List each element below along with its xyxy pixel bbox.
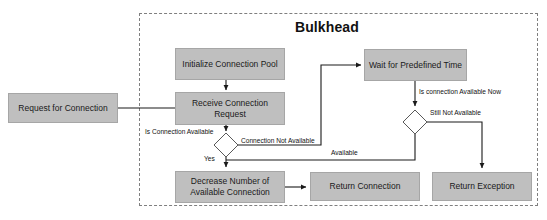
- decision-connection-available-diamond: [214, 133, 238, 157]
- edge-label-available: Available: [331, 149, 358, 157]
- node-decrease-number-of-available-connection[interactable]: Decrease Number of Available Connection: [175, 171, 285, 203]
- edge-label-is-connection-available: Is Connection Available: [145, 128, 213, 136]
- edge-decisionnow-to-returnexception: [427, 122, 482, 168]
- node-initialize-connection-pool[interactable]: Initialize Connection Pool: [175, 48, 285, 80]
- node-receive-connection-request[interactable]: Receive Connection Request: [175, 92, 285, 125]
- node-wait-for-predefined-time[interactable]: Wait for Predefined Time: [364, 49, 467, 81]
- decision-connection-available-now-diamond: [403, 110, 427, 134]
- edge-label-still-not-available: Still Not Available: [430, 109, 481, 117]
- node-return-exception[interactable]: Return Exception: [432, 172, 532, 201]
- edge-label-connection-not-available: Connection Not Available: [241, 137, 315, 145]
- node-return-connection[interactable]: Return Connection: [310, 172, 420, 201]
- edge-label-yes: Yes: [204, 155, 215, 163]
- edge-label-is-connection-available-now: Is connection Available Now: [419, 88, 501, 96]
- diagram-canvas: Bulkhead Request for Connectio: [0, 0, 547, 220]
- node-request-for-connection[interactable]: Request for Connection: [8, 93, 118, 123]
